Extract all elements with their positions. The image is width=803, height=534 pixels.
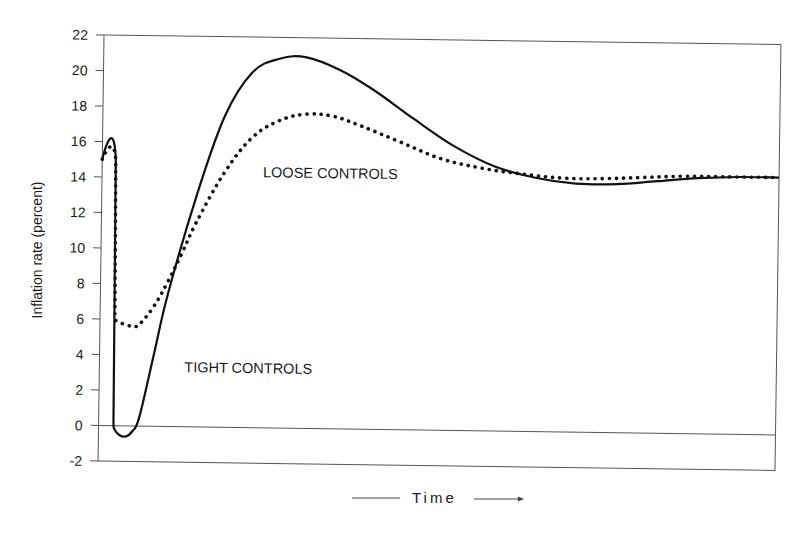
series-layer xyxy=(98,53,780,445)
y-tick-label: 6 xyxy=(76,311,84,327)
y-tick-label: 18 xyxy=(71,98,87,114)
annotation-tight-controls: TIGHT CONTROLS xyxy=(184,359,312,377)
y-tick-label: 10 xyxy=(69,240,85,256)
series-line-tight-controls xyxy=(98,53,780,445)
plot-frame xyxy=(98,35,781,470)
x-axis-label: Time xyxy=(412,489,457,506)
zero-reference-line xyxy=(99,425,776,434)
y-tick-label: 4 xyxy=(76,346,84,362)
x-axis-label-group: Time xyxy=(352,489,524,506)
y-tick-label: 12 xyxy=(70,204,86,220)
x-axis-arrow-head-icon xyxy=(518,497,524,502)
y-tick-label: 0 xyxy=(75,417,83,433)
y-axis-label: Inflation rate (percent) xyxy=(29,182,45,319)
series-line-loose-controls xyxy=(100,111,780,336)
annotation-loose-controls: LOOSE CONTROLS xyxy=(263,164,398,182)
y-tick-label: 22 xyxy=(72,27,88,43)
y-tick-label: -2 xyxy=(69,453,82,469)
y-tick-label: 14 xyxy=(70,169,86,185)
y-tick-label: 16 xyxy=(71,133,87,149)
line-chart: -20246810121416182022 LOOSE CONTROLS TIG… xyxy=(0,0,803,534)
y-tick-label: 20 xyxy=(72,62,88,78)
y-tick-label: 8 xyxy=(77,275,85,291)
y-tick-label: 2 xyxy=(75,382,83,398)
